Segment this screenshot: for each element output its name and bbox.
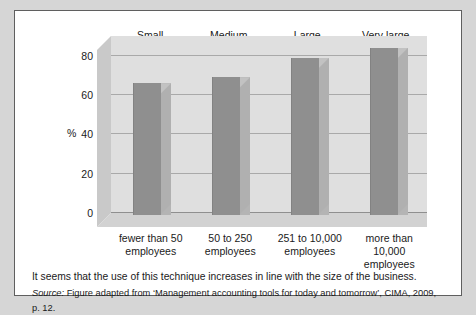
- bar-side-face-1: [239, 77, 250, 215]
- x-axis-label-line: 10,000: [350, 245, 430, 258]
- x-axis-label-3: more than10,000employees: [350, 232, 430, 271]
- bar-2: [291, 58, 318, 215]
- plot-floor: [97, 213, 427, 227]
- bar-side-inner-2: [318, 58, 329, 215]
- x-axis-label-line: 50 to 250: [191, 232, 271, 245]
- bar-front-face-2: [291, 58, 319, 215]
- x-axis-label-line: fewer than 50: [111, 232, 191, 245]
- figure-frame: Small Medium Large Very large 020406080 …: [14, 10, 462, 296]
- bar-3: [370, 48, 397, 215]
- x-axis-label-line: more than: [350, 232, 430, 245]
- bar-side-inner-0: [160, 83, 171, 215]
- x-axis-label-line: employees: [270, 245, 350, 258]
- source-label: Source:: [32, 288, 64, 298]
- caption-text: It seems that the use of this technique …: [32, 269, 446, 284]
- y-tick-label-0: 0: [59, 207, 93, 219]
- bar-front-face-1: [212, 77, 240, 215]
- bar-side-face-3: [397, 48, 408, 215]
- x-axis-labels: fewer than 50employees50 to 250employees…: [111, 232, 429, 271]
- bar-front-face-0: [133, 83, 161, 215]
- bar-side-face-2: [318, 58, 329, 215]
- y-tick-label-80: 80: [59, 50, 93, 62]
- y-tick-label-20: 20: [59, 168, 93, 180]
- x-axis-label-line: employees: [111, 245, 191, 258]
- x-axis-label-2: 251 to 10,000employees: [270, 232, 350, 271]
- y-axis-label: %: [67, 127, 76, 139]
- x-axis-label-line: 251 to 10,000: [270, 232, 350, 245]
- bar-side-inner-1: [239, 77, 250, 215]
- bar-chart: Small Medium Large Very large 020406080 …: [15, 11, 461, 266]
- x-axis-label-line: employees: [191, 245, 271, 258]
- x-axis-label-1: 50 to 250employees: [191, 232, 271, 271]
- caption-source: Source: Figure adapted from ‘Management …: [32, 286, 446, 315]
- caption-block: It seems that the use of this technique …: [32, 269, 446, 315]
- bar-front-face-3: [370, 48, 398, 215]
- y-tick-label-60: 60: [59, 89, 93, 101]
- bar-side-face-0: [160, 83, 171, 215]
- bar-side-inner-3: [397, 48, 408, 215]
- plot-left-wall: [97, 36, 111, 227]
- bar-0: [133, 83, 160, 215]
- source-reference: Figure adapted from ‘Management accounti…: [32, 288, 436, 313]
- x-axis-label-0: fewer than 50employees: [111, 232, 191, 271]
- bar-1: [212, 77, 239, 215]
- plot-area: [97, 36, 427, 229]
